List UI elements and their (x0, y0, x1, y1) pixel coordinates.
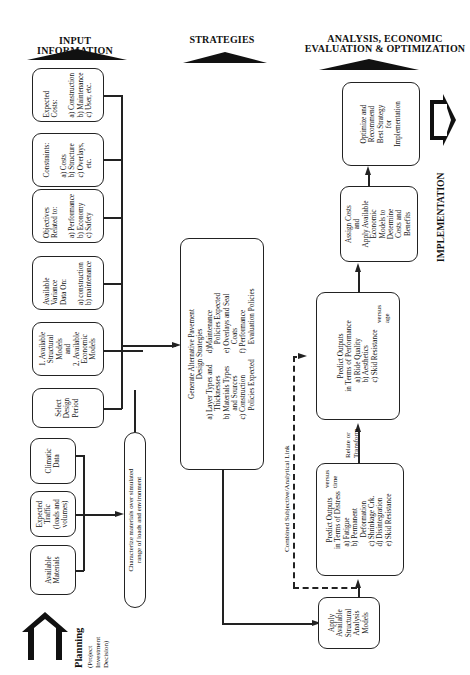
planning-title: Planning (74, 628, 83, 668)
lower-input-bus (83, 455, 85, 571)
input-bus-to-strategies (121, 350, 143, 352)
box-objectives: Objectives Related to: a) Performance b)… (32, 189, 104, 243)
text-objectives: Objectives Related to: a) Performance b)… (43, 194, 93, 238)
strategies-to-apply-line (222, 623, 314, 625)
implementation-label: IMPLEMENTATION (436, 173, 446, 262)
strategies-col2: d)Maintenance Policies Expected e) Overl… (206, 289, 256, 354)
distress-items: a) Fatigue b) Permanent Deformation c) S… (343, 493, 393, 546)
connector-design-period (104, 408, 122, 410)
text-select-design-period: Select Design Period (55, 398, 80, 418)
box-predict-distress: Predict Outputs in Terms of Distress a) … (316, 463, 404, 576)
arrow-to-assign-costs (355, 263, 361, 272)
connector-models (104, 350, 122, 352)
box-constraints: Constraints: a) Costs b) Structure c) Ov… (32, 133, 104, 187)
text-characterize-materials: Characterize materials over simulated ra… (127, 469, 142, 572)
combined-link-bottom (293, 587, 357, 589)
planning-arrow-icon (20, 608, 70, 660)
connector-variance (104, 283, 122, 285)
relate-transform-label: Relate or Transform (344, 429, 360, 458)
text-variance-data: Available Variance Data On: a) construct… (43, 261, 93, 305)
box-available-materials: Available Materials (30, 545, 76, 595)
strategies-down-line (222, 470, 224, 624)
arrow-to-characterize (115, 511, 124, 517)
text-apply-structural: Apply Available Structural Analysis Mode… (328, 609, 370, 637)
combined-link-label: Combined Subjective/Analytical Link (283, 445, 291, 552)
arrow-to-optimize (365, 166, 371, 175)
arrow-to-performance (298, 353, 307, 359)
box-apply-structural: Apply Available Structural Analysis Mode… (318, 597, 380, 649)
box-available-models: 1. Available Structural Models and 2. Av… (32, 322, 104, 376)
combined-link-vertical (293, 356, 295, 588)
header-analysis-triangle (319, 59, 419, 70)
combined-link-top (293, 356, 297, 358)
implementation-arrow-icon (428, 92, 458, 148)
box-characterize-materials: Characterize materials over simulated ra… (124, 432, 146, 608)
performance-content: Predict Outputs in Terms of Performance … (337, 296, 379, 416)
text-expected-costs: Expected Costs: a) Construction b) Maint… (43, 73, 93, 118)
connector-traffic (76, 514, 116, 516)
box-expected-traffic: Expected Traffic (loads and volumes) (30, 491, 76, 537)
header-analysis-line2: EVALUATION & OPTIMIZATION (300, 44, 470, 54)
text-optimize-recommend: Optimize and Recommend Best Strategy for… (360, 101, 402, 147)
performance-title: Predict Outputs in Terms of Performance (337, 296, 354, 416)
planning-subtitle: (Project Investment Decision) (86, 637, 110, 668)
box-select-design-period: Select Design Period (32, 388, 104, 428)
characterize-up-line (134, 390, 136, 432)
connector-expected-costs (104, 95, 122, 97)
text-assign-costs: Assign Costs and Apply Available Economi… (345, 201, 412, 248)
strategies-content: Generate Alternative Pavement Design Str… (188, 244, 256, 464)
box-assign-costs: Assign Costs and Apply Available Economi… (340, 186, 418, 262)
strategies-title: Generate Alternative Pavement Design Str… (188, 244, 205, 464)
text-available-models: 1. Available Structural Models and 2. Av… (39, 332, 98, 366)
text-expected-traffic: Expected Traffic (loads and volumes) (36, 499, 70, 529)
box-generate-strategies: Generate Alternative Pavement Design Str… (180, 238, 264, 470)
header-input-triangle (27, 49, 127, 60)
performance-versus: versus age (375, 305, 391, 323)
box-expected-costs: Expected Costs: a) Construction b) Maint… (32, 68, 104, 122)
header-analysis: ANALYSIS, ECONOMIC EVALUATION & OPTIMIZA… (300, 34, 470, 54)
header-strategies-triangle (183, 52, 267, 63)
box-variance-data: Available Variance Data On: a) construct… (32, 256, 104, 310)
box-climatic-data: Climatic Data (30, 438, 76, 484)
box-predict-performance: Predict Outputs in Terms of Performance … (316, 292, 400, 420)
text-climatic-data: Climatic Data (45, 449, 62, 474)
header-strategies: STRATEGIES (182, 35, 262, 45)
connector-constraints (104, 159, 122, 161)
box-optimize-recommend: Optimize and Recommend Best Strategy for… (342, 82, 420, 166)
input-to-strategies-line (121, 345, 176, 347)
strategies-col1: a) Layer Types and Thicknesses b) Materi… (206, 359, 256, 419)
performance-items: a) Ride Quality b) Aesthetics c) Skid Re… (354, 329, 379, 382)
connector-objectives (104, 217, 122, 219)
text-available-materials: Available Materials (45, 556, 62, 583)
distress-versus: versus time (323, 470, 339, 488)
input-bus-vertical (121, 95, 123, 409)
performance-up-line (358, 270, 360, 292)
text-constraints: Constraints: a) Costs b) Structure c) Ov… (43, 142, 93, 177)
